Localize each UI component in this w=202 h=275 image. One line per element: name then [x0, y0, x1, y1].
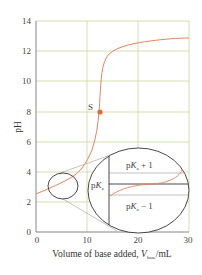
y-tick-4: 4: [27, 167, 32, 177]
pka-minus-one-label: pKa − 1: [126, 201, 153, 212]
y-tick-8: 8: [27, 107, 32, 117]
x-tick-30: 30: [184, 235, 194, 245]
x-tick-20: 20: [134, 235, 144, 245]
magnified-inset: pKa pKa + 1 pKa − 1: [88, 146, 189, 235]
stoichiometric-point-label: S: [88, 102, 93, 112]
x-tick-10: 10: [83, 235, 93, 245]
y-axis-title: pH: [13, 121, 23, 133]
pka-plus-one-label: pKa + 1: [126, 160, 153, 171]
source-region-ellipse: [48, 173, 78, 199]
x-tick-0: 0: [35, 235, 40, 245]
x-axis-title: Volume of base added, Vbase/mL: [52, 249, 171, 260]
y-tick-2: 2: [27, 197, 32, 207]
y-tick-labels: 14 12 10 8 6 4 2 0: [22, 16, 32, 237]
y-tick-12: 12: [22, 46, 31, 56]
y-tick-0: 0: [27, 227, 32, 237]
stoichiometric-point: [97, 109, 102, 114]
y-tick-10: 10: [22, 76, 32, 86]
x-tick-labels: 0 10 20 30: [35, 235, 193, 245]
y-tick-14: 14: [22, 16, 32, 26]
y-tick-6: 6: [27, 137, 32, 147]
titration-chart: 14 12 10 8 6 4 2 0 0 10 20 30 pH Volume …: [0, 0, 202, 275]
